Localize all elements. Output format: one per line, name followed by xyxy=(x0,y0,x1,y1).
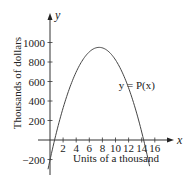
x-axis-letter: x xyxy=(176,133,183,147)
y-axis-arrow-icon xyxy=(48,13,53,20)
y-tick-label: 400 xyxy=(29,95,46,107)
y-tick-label: 1000 xyxy=(23,37,46,49)
y-tick-label: −200 xyxy=(22,154,45,166)
x-axis-title: Units of a thousand xyxy=(73,152,159,164)
y-tick-label: 800 xyxy=(29,56,46,68)
x-axis-arrow-icon xyxy=(167,138,174,143)
chart: 246810121416−2002004006008001000 Thousan… xyxy=(0,0,191,182)
y-axis-letter: y xyxy=(54,8,61,22)
ticks: 246810121416−2002004006008001000 xyxy=(22,37,161,166)
x-tick-label: 2 xyxy=(60,142,66,154)
y-tick-label: 200 xyxy=(29,115,46,127)
y-axis-title: Thousands of dollars xyxy=(11,37,23,129)
curve-label: y = P(x) xyxy=(119,79,155,92)
y-tick-label: 600 xyxy=(29,76,46,88)
